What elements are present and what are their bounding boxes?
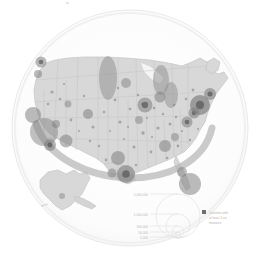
metro-circle-marker (108, 169, 117, 178)
county-dot (127, 126, 129, 128)
county-dot (83, 95, 85, 97)
county-dot (169, 123, 172, 126)
county-dot (70, 119, 73, 122)
metro-circle-marker (159, 140, 171, 152)
metro-circle-core (142, 102, 148, 108)
county-dot (78, 130, 80, 132)
metro-circle-marker (177, 167, 187, 177)
metro-circle-core (207, 91, 212, 96)
legend-scale-label-1: 1,000,000 (134, 213, 148, 217)
legend-symbol-line-2: measure (209, 221, 222, 225)
county-dot (50, 90, 53, 93)
county-dot (150, 151, 153, 154)
metro-circle-marker (25, 107, 41, 123)
county-dot (156, 126, 159, 129)
county-dot (153, 107, 156, 110)
county-dot (137, 94, 139, 96)
metro-circle-core (196, 101, 204, 109)
county-dot (89, 140, 91, 142)
metro-circle-core (47, 142, 52, 147)
metro-circle-marker (52, 120, 60, 128)
county-dot (146, 117, 148, 119)
metro-circle-marker (111, 151, 125, 165)
county-dot (197, 128, 199, 130)
county-dot (175, 116, 177, 118)
legend-symbol-swatch (202, 210, 206, 214)
metro-circle-marker (65, 101, 72, 108)
county-dot (123, 138, 125, 140)
metro-circle-marker (34, 70, 42, 78)
county-dot (63, 83, 65, 85)
legend-symbol-line-1: at least 1 ice (209, 216, 227, 220)
county-dot (117, 87, 119, 89)
county-dot (141, 131, 144, 134)
legend-scale-label-0: 5,000,000 (134, 193, 148, 197)
county-dot (133, 146, 136, 149)
top-artifact-mark (66, 2, 69, 4)
figure-canvas: 5,000,000 1,000,000 500,000 50,000 5,000… (0, 0, 260, 257)
ellipse-marker (99, 56, 117, 100)
legend-scale-label-2: 500,000 (136, 225, 148, 229)
county-dot (151, 136, 153, 138)
metro-circle-core (122, 170, 130, 178)
county-dot (162, 113, 164, 115)
county-dot (59, 98, 61, 100)
county-dot (189, 139, 191, 141)
metro-circle-marker (59, 193, 65, 199)
metro-circle-marker (171, 133, 179, 141)
county-dot (181, 130, 183, 132)
ellipse-marker (164, 82, 178, 108)
metro-circle-marker (121, 78, 131, 88)
metro-circle-marker (60, 135, 73, 148)
metro-circle-marker (155, 92, 166, 103)
legend-symbol-line-0: Counties with (209, 211, 228, 215)
metro-circle-marker (83, 109, 93, 119)
map-thumbnail-figure: 5,000,000 1,000,000 500,000 50,000 5,000… (0, 0, 260, 257)
county-dot (109, 130, 111, 132)
county-dot (173, 104, 175, 106)
county-dot (98, 145, 100, 147)
county-dot (105, 159, 108, 162)
county-dot (103, 111, 106, 114)
county-dot (129, 108, 132, 111)
metro-circle-marker (135, 116, 143, 124)
legend-scale-label-3: 50,000 (138, 231, 148, 235)
county-dot (185, 98, 188, 101)
county-dot (114, 99, 117, 102)
metro-circle-core (39, 60, 44, 65)
county-dot (118, 120, 121, 123)
county-dot (177, 145, 180, 148)
county-dot (166, 157, 169, 160)
legend-scale-label-4: 5,000 (140, 236, 148, 240)
county-dot (47, 103, 50, 106)
metro-circle-core (185, 120, 190, 125)
county-dot (135, 164, 137, 166)
county-dot (192, 89, 195, 92)
county-dot (92, 126, 95, 129)
